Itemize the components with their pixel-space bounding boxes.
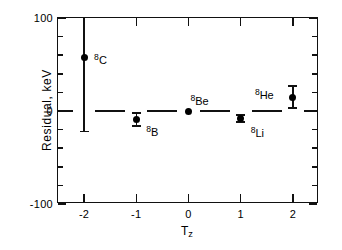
y-axis-minor-tick — [58, 36, 63, 38]
y-axis-tick-label: 100 — [34, 12, 53, 24]
isotope-symbol: B — [151, 126, 158, 138]
x-axis-tick-label: 0 — [185, 208, 191, 220]
error-bar-line — [83, 18, 85, 131]
y-axis-minor-tick — [58, 147, 63, 149]
zero-reference-line-segment — [62, 110, 73, 112]
x-axis-major-tick — [188, 194, 190, 202]
residual-vs-tz-figure: 1000-100-2-10128C8B8Be8Li8He Residual, k… — [0, 0, 342, 250]
zero-reference-line-segment — [95, 110, 125, 112]
y-axis-minor-tick — [312, 147, 317, 149]
zero-reference-line-segment — [200, 110, 230, 112]
y-axis-minor-tick — [58, 166, 63, 168]
y-axis-minor-tick — [312, 129, 317, 131]
x-axis-major-tick — [292, 194, 294, 202]
x-axis-major-tick — [240, 18, 242, 26]
zero-reference-line-segment — [252, 110, 282, 112]
error-bar-cap-lower — [288, 107, 297, 109]
error-bar-cap-lower — [80, 131, 89, 133]
x-axis-title-subscript: z — [188, 229, 193, 239]
data-point-marker — [81, 54, 88, 61]
data-point-marker — [289, 94, 296, 101]
isotope-symbol: C — [99, 54, 107, 66]
y-axis-minor-tick — [312, 92, 317, 94]
error-bar-cap-lower — [132, 125, 141, 127]
data-point-marker — [133, 116, 140, 123]
data-point-marker — [185, 108, 192, 115]
y-axis-tick-label: -100 — [30, 198, 53, 210]
x-axis-tick-label: -1 — [131, 208, 141, 220]
x-axis-major-tick — [240, 194, 242, 202]
y-axis-major-tick — [58, 17, 66, 19]
y-axis-minor-tick — [58, 185, 63, 187]
y-axis-minor-tick — [312, 73, 317, 75]
y-axis-major-tick — [309, 17, 317, 19]
y-axis-minor-tick — [312, 185, 317, 187]
isotope-symbol: Li — [255, 127, 264, 139]
x-axis-tick-label: -2 — [79, 208, 89, 220]
y-axis-title-text: Residual, keV — [40, 69, 54, 151]
y-axis-minor-tick — [58, 73, 63, 75]
y-axis-minor-tick — [58, 92, 63, 94]
y-axis-major-tick — [58, 203, 66, 205]
x-axis-major-tick — [136, 194, 138, 202]
x-axis-tick-label: 1 — [237, 208, 243, 220]
data-point-label: 8C — [94, 53, 107, 66]
x-axis-major-tick — [83, 194, 85, 202]
y-axis-major-tick — [309, 203, 317, 205]
x-axis-major-tick — [292, 18, 294, 26]
y-axis-minor-tick — [58, 54, 63, 56]
y-axis-minor-tick — [312, 54, 317, 56]
y-axis-minor-tick — [58, 129, 63, 131]
data-point-label: 8Be — [191, 94, 209, 107]
x-axis-tick-label: 2 — [290, 208, 296, 220]
y-axis-title: Residual, keV — [40, 69, 54, 151]
x-axis-major-tick — [188, 18, 190, 26]
error-bar-cap-upper — [132, 112, 141, 114]
error-bar-cap-upper — [288, 85, 297, 87]
plot-frame: 1000-100-2-10128C8B8Be8Li8He — [57, 17, 318, 203]
y-axis-minor-tick — [312, 166, 317, 168]
y-axis-minor-tick — [312, 36, 317, 38]
data-point-label: 8B — [146, 125, 158, 138]
zero-reference-line-segment — [147, 110, 177, 112]
data-point-label: 8He — [255, 88, 274, 101]
zero-reference-line-segment — [304, 110, 315, 112]
x-axis-major-tick — [136, 18, 138, 26]
isotope-symbol: He — [260, 89, 274, 101]
isotope-symbol: Be — [195, 95, 208, 107]
data-point-label: 8Li — [251, 126, 264, 139]
x-axis-title: Tz — [181, 224, 193, 239]
